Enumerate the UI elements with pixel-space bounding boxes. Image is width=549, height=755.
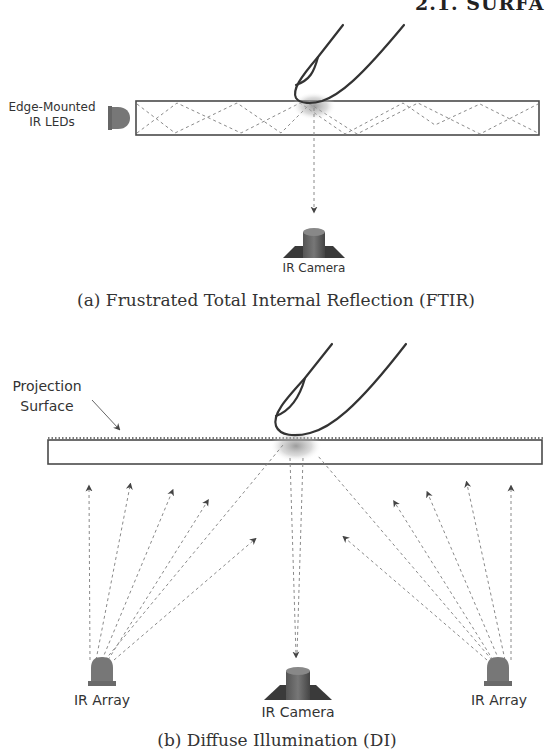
led-icon	[110, 107, 130, 129]
led-base	[108, 106, 112, 130]
tir-light-rays	[137, 103, 538, 134]
finger-icon	[295, 25, 404, 103]
led-label-line1: Edge-Mounted	[8, 100, 95, 114]
led-label-line2: IR LEDs	[29, 115, 74, 129]
finger-icon-di	[275, 344, 406, 435]
right-array-label: IR Array	[471, 692, 527, 708]
left-ir-array-icon	[88, 657, 116, 686]
diagram-canvas: Edge-Mounted IR LEDs IR Camera (a) Frust…	[0, 0, 549, 755]
camera-label-b: IR Camera	[261, 704, 334, 720]
surface-label-line2: Surface	[20, 398, 73, 414]
figure-di: Projection Surface	[12, 344, 543, 750]
right-array-rays	[318, 456, 511, 660]
reflected-rays-di	[290, 458, 303, 655]
left-array-rays	[89, 445, 283, 660]
left-array-label: IR Array	[74, 692, 130, 708]
right-ir-array-icon	[484, 657, 512, 686]
camera-icon	[283, 228, 345, 258]
surface-pointer-arrow	[92, 400, 118, 428]
surface-label-line1: Projection	[12, 378, 81, 394]
camera-label-a: IR Camera	[283, 261, 346, 275]
caption-b: (b) Diffuse Illumination (DI)	[157, 730, 396, 750]
camera-icon-di	[264, 667, 332, 700]
acrylic-panel	[136, 101, 539, 135]
figure-ftir: Edge-Mounted IR LEDs IR Camera (a) Frust…	[8, 25, 539, 310]
caption-a: (a) Frustrated Total Internal Reflection…	[77, 290, 475, 310]
